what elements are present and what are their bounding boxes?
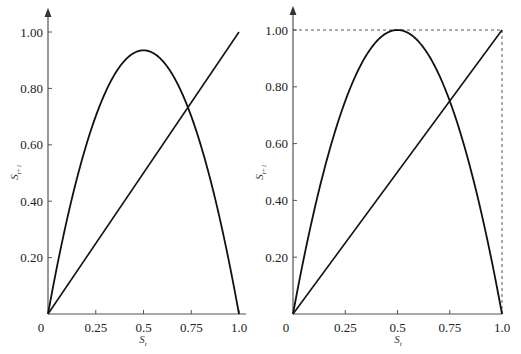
left-y-tick-label: 0.60 — [20, 137, 43, 152]
left-logistic-curve — [48, 50, 239, 314]
right-series — [293, 30, 502, 314]
right-y-ticks: 0.200.400.600.801.00 — [265, 23, 297, 265]
right-y-tick-label: 0.80 — [265, 79, 288, 94]
left-y-tick-label: 1.00 — [20, 25, 43, 40]
chart-figure: 00.250.50.751.0 0.200.400.600.801.00 St … — [0, 0, 521, 354]
right-y-axis-label: St+1 — [253, 164, 268, 180]
right-x-tick-label: 0 — [283, 320, 290, 335]
right-x-tick-label: 1.0 — [494, 320, 510, 335]
right-chart-panel: 00.250.50.751.0 0.200.400.600.801.00 St … — [253, 13, 510, 348]
left-x-axis-label: St — [139, 333, 148, 348]
right-y-tick-label: 1.00 — [265, 23, 288, 38]
right-y-tick-label: 0.40 — [265, 193, 288, 208]
left-series — [48, 32, 239, 314]
left-y-tick-label: 0.80 — [20, 81, 43, 96]
left-y-ticks: 0.200.400.600.801.00 — [20, 25, 52, 266]
left-y-tick-label: 0.40 — [20, 194, 43, 209]
left-y-tick-label: 0.20 — [20, 250, 43, 265]
left-x-tick-label: 1.0 — [231, 320, 247, 335]
right-y-tick-label: 0.20 — [265, 250, 288, 265]
left-x-tick-label: 0.25 — [84, 320, 107, 335]
left-x-tick-label: 0 — [38, 320, 45, 335]
left-y-axis-label: St+1 — [8, 164, 23, 180]
right-x-tick-label: 0.25 — [334, 320, 357, 335]
right-x-tick-label: 0.75 — [438, 320, 461, 335]
right-x-axis-label: St — [394, 333, 403, 348]
left-chart-panel: 00.250.50.751.0 0.200.400.600.801.00 St … — [8, 15, 247, 348]
right-y-tick-label: 0.60 — [265, 136, 288, 151]
left-x-tick-label: 0.75 — [180, 320, 203, 335]
left-identity-line — [48, 32, 239, 314]
